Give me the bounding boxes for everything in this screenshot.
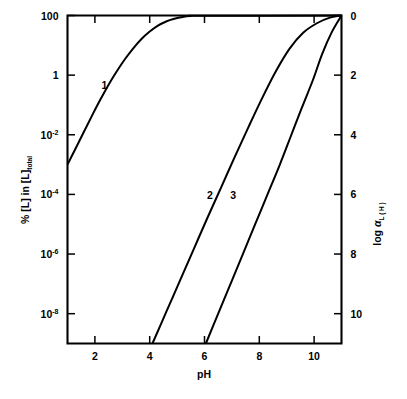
chart-figure: 246810 100110-210-410-610-8 0246810 123 … [0,0,407,399]
y-tick-label-left: 10-4 [41,188,59,200]
x-tick-label: 2 [92,350,98,362]
curve-label-2: 2 [207,189,213,201]
y-tick-label-left: 100 [41,10,59,22]
y-axis-title-left-group: % [L] in [L]total [19,156,33,224]
y-tick-label-right: 6 [351,188,357,200]
y-axis-tick-labels-left: 100110-210-410-610-8 [41,10,59,320]
curve-2 [152,16,341,344]
curve-3 [206,16,342,344]
x-tick-label: 4 [147,350,153,362]
y-tick-label-right: 10 [351,308,363,320]
x-tick-label: 6 [202,350,208,362]
curve-label-3: 3 [230,189,236,201]
y-tick-label-right: 8 [351,248,357,260]
y-axis-tick-labels-right: 0246810 [351,10,363,320]
y-tick-label-left: 10-6 [41,248,59,260]
y-axis-title-right-group: logαL ( H ) [371,202,386,246]
plot-frame [68,16,342,344]
x-axis-tick-labels: 246810 [92,350,320,362]
x-tick-label: 8 [256,350,262,362]
chart-svg: 246810 100110-210-410-610-8 0246810 123 … [0,0,407,399]
x-axis-title: pH [197,368,211,380]
x-tick-label: 10 [308,350,320,362]
y-tick-label-left: 10-8 [41,308,59,320]
y-axis-title-right: logαL ( H ) [371,202,386,246]
y-axis-title-left: % [L] in [L]total [19,156,33,224]
y-axis-ticks-right [334,16,342,314]
y-tick-label-right: 2 [351,69,357,81]
curve-label-1: 1 [102,79,108,91]
y-tick-label-right: 4 [351,129,357,141]
y-tick-label-left: 1 [53,69,59,81]
y-tick-label-left: 10-2 [41,129,59,141]
curve-number-labels: 123 [102,79,237,201]
y-axis-ticks-left [68,16,76,314]
x-axis-ticks-bottom [95,336,314,344]
data-curves [68,16,342,344]
y-tick-label-right: 0 [351,10,357,22]
curve-1 [68,16,342,165]
